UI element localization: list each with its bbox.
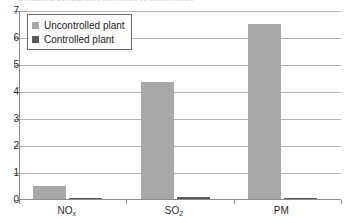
bar-PM-controlled [284, 198, 317, 199]
gridline-y-5 [20, 65, 341, 66]
y-axis-tick-label: 4 [3, 87, 19, 97]
bar-PM-uncontrolled [248, 24, 281, 200]
y-axis-tick-label: 1 [3, 168, 19, 178]
y-axis-tick-label: 3 [3, 114, 19, 124]
x-axis-tick-label-SO2: SO2 [165, 205, 183, 217]
gridline-y-2 [20, 146, 341, 147]
x-axis-tick-mark [19, 200, 20, 204]
gridline-y-7 [20, 11, 341, 12]
gridline-y-3 [20, 119, 341, 120]
x-axis-tick-mark [234, 200, 235, 204]
x-axis-tick-label-NOx: NOx [57, 205, 76, 217]
y-axis-tick-label: 2 [3, 141, 19, 151]
legend-label: Controlled plant [44, 34, 114, 45]
y-axis-tick-label: 0 [3, 195, 19, 205]
bar-SO2-controlled [177, 197, 210, 199]
y-axis-tick-label: 6 [3, 33, 19, 43]
gridline-y-1 [20, 173, 341, 174]
legend-item: Controlled plant [32, 32, 125, 46]
bar-NOx-controlled [69, 198, 102, 199]
legend-label: Uncontrolled plant [44, 20, 125, 31]
legend-item: Uncontrolled plant [32, 18, 125, 32]
legend-swatch-icon [32, 36, 39, 43]
bar-NOx-uncontrolled [33, 186, 66, 200]
gridline-y-4 [20, 92, 341, 93]
x-axis-tick-mark [341, 200, 342, 204]
chart-title: Emissions comparison, controlled vs unco… [18, 0, 218, 2]
x-axis-tick-label-PM: PM [274, 205, 289, 216]
x-axis-tick-mark [126, 200, 127, 204]
bar-SO2-uncontrolled [141, 82, 174, 199]
legend-swatch-icon [32, 22, 39, 29]
bar-chart: Emissions comparison, controlled vs unco… [0, 0, 345, 223]
y-axis-tick-label: 5 [3, 60, 19, 70]
y-axis-tick-label: 7 [3, 6, 19, 16]
legend: Uncontrolled plantControlled plant [27, 14, 132, 50]
